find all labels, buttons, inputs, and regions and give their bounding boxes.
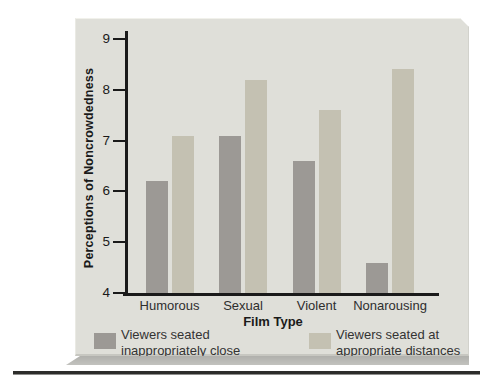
legend-label-far: Viewers seated at appropriate distances [336,327,460,359]
category-label: Nonarousing [353,298,427,313]
y-tick-label: 4 [84,284,110,302]
x-axis-title: Film Type [243,314,303,329]
y-tick [113,38,125,40]
legend-label-close: Viewers seated inappropriately close [121,327,240,359]
y-tick-label: 8 [84,81,110,99]
y-axis-line [125,31,128,293]
y-tick [113,89,125,91]
bar [293,161,315,293]
y-tick [113,241,125,243]
y-tick-label: 6 [84,182,110,200]
bottom-rule [13,371,480,375]
bar [392,69,414,293]
bar [219,136,241,293]
legend-item-close: Viewers seated inappropriately close [94,327,240,359]
legend-item-far: Viewers seated at appropriate distances [309,327,460,359]
y-tick-label: 5 [84,233,110,251]
bar [146,181,168,293]
legend-label-close-line1: Viewers seated [121,327,240,343]
y-tick-label: 9 [84,30,110,48]
figure: Perceptions of Noncrowdedness Film Type … [0,0,480,385]
bar [245,80,267,293]
category-label: Violent [297,298,337,313]
y-tick-label: 7 [84,132,110,150]
category-label: Sexual [223,298,263,313]
panel-shadow [66,356,469,365]
y-tick [113,292,125,294]
bar [319,110,341,293]
x-axis-line [123,293,439,296]
figure-panel: Perceptions of Noncrowdedness Film Type … [75,18,469,356]
y-tick [113,190,125,192]
legend-swatch-close [94,333,116,349]
chart-area: Film Type 456789HumorousSexualViolentNon… [126,31,439,293]
bar [172,136,194,293]
legend-swatch-far [309,333,331,349]
bar [366,263,388,293]
category-label: Humorous [140,298,200,313]
y-tick [113,140,125,142]
legend-label-far-line1: Viewers seated at [336,327,460,343]
